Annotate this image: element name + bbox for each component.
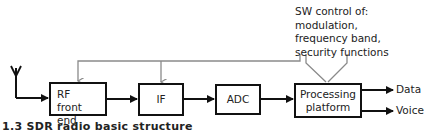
- control-bus-line: [78, 54, 300, 81]
- adc-label: ADC: [227, 93, 250, 106]
- if-label: IF: [156, 93, 165, 106]
- voice-output-label: Voice: [396, 104, 424, 117]
- sw-control-annotation: SW control of: modulation, frequency ban…: [295, 5, 389, 59]
- proc-label-line2: platform: [306, 101, 351, 114]
- figure-caption: 1.3 SDR radio basic structure: [2, 120, 193, 133]
- antenna-icon: [11, 66, 21, 98]
- adc-block: ADC: [215, 84, 261, 115]
- if-block: IF: [138, 83, 184, 116]
- rf-label-line1: RF: [57, 88, 105, 101]
- processing-platform-block: Processing platform: [294, 83, 362, 118]
- sw-control-line3: frequency band,: [295, 32, 389, 46]
- sw-control-line2: modulation,: [295, 19, 389, 33]
- sw-control-line4: security functions: [295, 46, 389, 60]
- sw-control-line1: SW control of:: [295, 5, 389, 19]
- proc-label-line1: Processing: [300, 88, 356, 101]
- data-output-label: Data: [396, 83, 421, 96]
- rf-front-end-block: RF front end: [49, 82, 107, 116]
